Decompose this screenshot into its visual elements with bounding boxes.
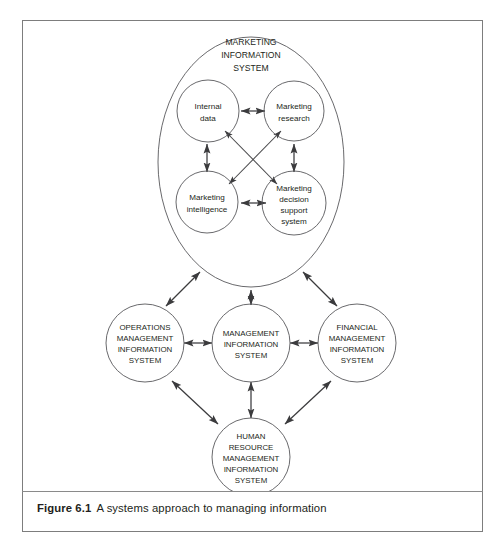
mdss-line-1: Marketing: [276, 184, 312, 193]
mkis-label-line-1: MARKETING: [225, 37, 276, 47]
connector-internal-data-mdss-diagonal: [225, 131, 277, 184]
connector-marketing-research-marketing-intelligence-diagonal: [229, 131, 281, 184]
hrmis-line-5: SYSTEM: [235, 476, 267, 485]
node-financial-management-information-system: FINANCIAL MANAGEMENT INFORMATION SYSTEM: [318, 304, 396, 382]
mkis-label-line-3: SYSTEM: [233, 63, 268, 73]
systems-diagram: MARKETING INFORMATION SYSTEM: [22, 20, 483, 491]
node-marketing-intelligence: Marketing intelligence: [176, 171, 238, 233]
mdss-line-4: system: [281, 217, 307, 226]
mkis-label-line-2: INFORMATION: [221, 50, 281, 60]
internal-data-line-2: data: [200, 114, 216, 123]
caption-divider: [22, 491, 483, 492]
diagram-canvas: MARKETING INFORMATION SYSTEM: [22, 20, 483, 491]
mdss-line-3: support: [281, 206, 309, 215]
figure-caption-text: A systems approach to managing informati…: [96, 502, 326, 514]
figure-caption: Figure 6.1A systems approach to managing…: [37, 502, 467, 514]
internal-data-line-1: Internal: [195, 102, 222, 111]
node-marketing-decision-support-system: Marketing decision support system: [262, 171, 326, 235]
node-marketing-research: Marketing research: [264, 81, 324, 141]
mis-line-2: INFORMATION: [224, 340, 279, 349]
connector-mkis-operations: [166, 272, 200, 306]
figure-page: MARKETING INFORMATION SYSTEM: [0, 0, 504, 556]
mis-line-1: MANAGEMENT: [223, 329, 280, 338]
marketing-research-line-2: research: [278, 114, 310, 123]
hrmis-line-2: RESOURCE: [229, 443, 274, 452]
fmis-line-3: INFORMATION: [330, 345, 385, 354]
node-internal-data: Internal data: [177, 80, 239, 142]
mdss-line-2: decision: [279, 195, 309, 204]
omis-line-3: INFORMATION: [118, 345, 173, 354]
marketing-research-line-1: Marketing: [276, 102, 312, 111]
marketing-intelligence-line-1: Marketing: [189, 193, 225, 202]
omis-line-1: OPERATIONS: [119, 323, 170, 332]
hrmis-line-4: INFORMATION: [224, 465, 279, 474]
mis-line-3: SYSTEM: [235, 351, 267, 360]
node-operations-management-information-system: OPERATIONS MANAGEMENT INFORMATION SYSTEM: [106, 304, 184, 382]
node-management-information-system: MANAGEMENT INFORMATION SYSTEM: [212, 304, 290, 382]
hrmis-line-3: MANAGEMENT: [223, 454, 280, 463]
connector-financial-hrmis: [285, 381, 331, 424]
marketing-intelligence-line-2: intelligence: [187, 205, 228, 214]
connector-operations-hrmis: [172, 381, 218, 424]
fmis-line-2: MANAGEMENT: [329, 334, 386, 343]
omis-line-4: SYSTEM: [129, 356, 161, 365]
node-human-resource-management-information-system: HUMAN RESOURCE MANAGEMENT INFORMATION SY…: [212, 418, 290, 491]
connector-mkis-financial: [303, 272, 337, 306]
hrmis-line-1: HUMAN: [237, 432, 266, 441]
figure-caption-label: Figure 6.1: [37, 502, 91, 514]
fmis-line-4: SYSTEM: [341, 356, 373, 365]
fmis-line-1: FINANCIAL: [336, 323, 378, 332]
omis-line-2: MANAGEMENT: [117, 334, 174, 343]
